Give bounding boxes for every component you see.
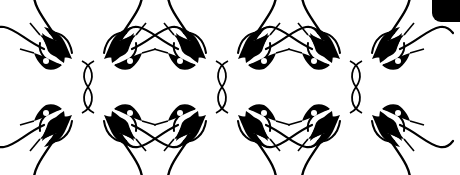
corner-tab-label (432, 0, 433, 1)
ornament-strip (0, 0, 460, 175)
corner-tab (432, 0, 460, 22)
ornament-motif-2 (125, 0, 319, 175)
ornament-motif-1 (0, 0, 185, 175)
ornament-motif-3 (259, 0, 453, 175)
